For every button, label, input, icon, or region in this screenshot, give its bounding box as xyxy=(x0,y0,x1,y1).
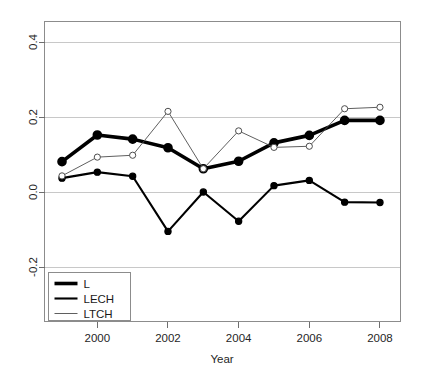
y-tick-label-3: 0.4 xyxy=(27,33,39,50)
legend-label-l: L xyxy=(84,278,91,290)
series-line-lech xyxy=(62,172,380,231)
y-tick-label-1: 0.0 xyxy=(27,184,39,200)
x-axis-ticks xyxy=(97,322,380,328)
data-point-l-2007 xyxy=(341,116,349,124)
data-point-lech-2002 xyxy=(165,228,171,234)
y-axis-ticks xyxy=(39,42,45,267)
legend-item-l[interactable]: L xyxy=(55,278,91,290)
data-point-l-1999 xyxy=(58,158,66,166)
data-point-ltch-2006 xyxy=(306,143,312,149)
legend-label-lech: LECH xyxy=(84,293,115,305)
data-point-lech-2004 xyxy=(236,218,242,224)
data-point-lech-2000 xyxy=(94,169,100,175)
series-lech xyxy=(59,169,383,234)
data-point-l-2001 xyxy=(129,135,137,143)
data-point-ltch-2001 xyxy=(130,152,136,158)
data-point-lech-2003 xyxy=(200,189,206,195)
data-point-l-2000 xyxy=(93,131,101,139)
data-point-ltch-2007 xyxy=(342,106,348,112)
y-tick-label-0: -0.2 xyxy=(27,257,39,277)
data-point-ltch-1999 xyxy=(59,173,65,179)
data-point-l-2006 xyxy=(305,131,313,139)
legend-item-lech[interactable]: LECH xyxy=(55,293,115,305)
series-l xyxy=(58,116,384,172)
data-point-ltch-2008 xyxy=(377,104,383,110)
x-axis-tick-labels: 20002002200420062008 xyxy=(85,332,393,344)
data-point-ltch-2000 xyxy=(94,154,100,160)
chart-container: 20002002200420062008 -0.20.00.20.4 LLECH… xyxy=(0,0,423,384)
data-point-lech-2001 xyxy=(130,173,136,179)
data-point-ltch-2002 xyxy=(165,108,171,114)
data-point-lech-2008 xyxy=(377,199,383,205)
series-ltch xyxy=(59,104,383,179)
data-point-lech-2007 xyxy=(342,199,348,205)
data-point-ltch-2004 xyxy=(236,128,242,134)
y-axis-tick-labels: -0.20.00.20.4 xyxy=(27,33,39,277)
x-tick-label-0: 2000 xyxy=(85,332,111,344)
data-point-l-2008 xyxy=(376,116,384,124)
y-tick-label-2: 0.2 xyxy=(27,109,39,125)
chart-legend[interactable]: LLECHLTCH xyxy=(49,273,131,321)
data-point-lech-2005 xyxy=(271,183,277,189)
x-tick-label-4: 2008 xyxy=(367,332,393,344)
x-tick-label-3: 2006 xyxy=(297,332,323,344)
data-series xyxy=(58,104,384,234)
data-point-lech-2006 xyxy=(306,177,312,183)
series-line-l xyxy=(62,120,380,168)
data-point-ltch-2003 xyxy=(200,166,206,172)
legend-label-ltch: LTCH xyxy=(84,308,113,320)
data-point-ltch-2005 xyxy=(271,144,277,150)
x-axis-title: Year xyxy=(210,353,233,365)
x-tick-label-1: 2002 xyxy=(155,332,181,344)
line-chart: 20002002200420062008 -0.20.00.20.4 LLECH… xyxy=(0,0,423,384)
legend-item-ltch[interactable]: LTCH xyxy=(55,308,113,320)
x-tick-label-2: 2004 xyxy=(226,332,252,344)
data-point-l-2004 xyxy=(235,157,243,165)
data-point-l-2002 xyxy=(164,144,172,152)
